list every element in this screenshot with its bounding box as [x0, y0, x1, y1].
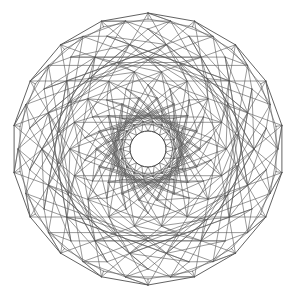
- polytope-projection-figure: Orthogonal projection wireframe of a pol…: [0, 0, 297, 303]
- wireframe-drawing: [0, 0, 297, 303]
